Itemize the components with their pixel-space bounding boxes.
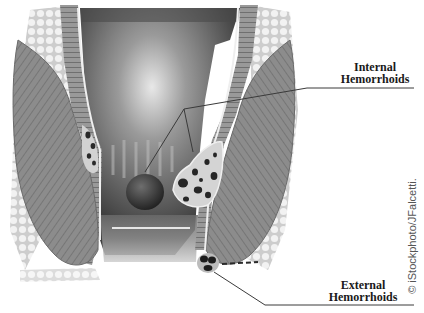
internal-hemorrhoid-mass — [126, 174, 164, 210]
diagram-canvas: Internal Hemorrhoids External Hemorrhoid… — [0, 0, 424, 313]
rectum-cross-section-illustration — [0, 0, 424, 313]
external-hemorrhoids-label: External Hemorrhoids — [318, 279, 408, 303]
internal-hemorrhoids-label: Internal Hemorrhoids — [330, 61, 420, 85]
image-credit: © iStockphoto/JFalcetti. — [406, 178, 418, 294]
external-label-line2: Hemorrhoids — [318, 291, 408, 303]
internal-label-line2: Hemorrhoids — [330, 73, 420, 85]
